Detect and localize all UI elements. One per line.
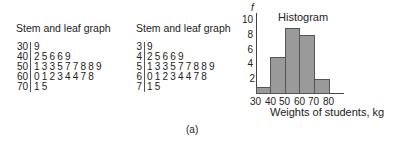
y-tick: 8 bbox=[239, 29, 253, 40]
x-tick: 30 bbox=[250, 96, 261, 107]
histogram-title: Histogram bbox=[278, 11, 328, 23]
stem-leaf-1-table: 309 4025669 50133577889 6001234478 7015 bbox=[16, 42, 104, 92]
stem-leaf-2-table: 39 425669 5133577889 601234478 715 bbox=[136, 42, 217, 92]
figure-caption: (a) bbox=[186, 124, 198, 135]
y-tick: 4 bbox=[239, 58, 253, 69]
bar-50-60 bbox=[285, 28, 300, 94]
stem: 70 bbox=[16, 82, 28, 92]
leaves: 15 bbox=[34, 82, 50, 92]
bar-70-80 bbox=[314, 79, 330, 94]
y-tick: 2 bbox=[241, 73, 255, 84]
x-axis-label: Weights of students, kg bbox=[270, 106, 384, 118]
stem-leaf-2-title: Stem and leaf graph bbox=[136, 22, 231, 34]
stem-leaf-1-divider bbox=[30, 42, 31, 92]
y-tick: 10 bbox=[239, 14, 253, 25]
bar-60-70 bbox=[299, 35, 315, 94]
bar-40-50 bbox=[270, 57, 286, 94]
y-axis-label: f bbox=[251, 2, 254, 13]
stem-leaf-row: 715 bbox=[136, 82, 217, 92]
y-tick: 6 bbox=[239, 44, 253, 55]
leaves: 15 bbox=[147, 82, 163, 92]
bar-30-40 bbox=[256, 87, 271, 94]
stem: 7 bbox=[136, 82, 142, 92]
y-axis bbox=[256, 13, 257, 94]
stem-leaf-1-title: Stem and leaf graph bbox=[16, 22, 111, 34]
stem-leaf-2-divider bbox=[144, 42, 145, 92]
